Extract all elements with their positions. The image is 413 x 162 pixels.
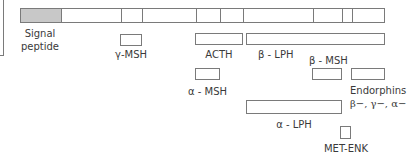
segment-divider — [243, 9, 244, 22]
acth-box — [195, 33, 243, 45]
acth-label: ACTH — [195, 49, 243, 60]
signal-peptide-segment — [21, 9, 61, 22]
endorphins-box — [351, 68, 385, 80]
beta-lph-label: β - LPH — [258, 49, 293, 60]
met-enk-box — [340, 126, 351, 139]
alpha-msh-box — [195, 68, 220, 80]
met-enk-label: MET-ENK — [316, 143, 376, 154]
segment-divider — [121, 9, 122, 22]
alpha-lph-label: α - LPH — [246, 119, 342, 130]
alpha-lph-box — [246, 100, 342, 114]
signal-label-line2: peptide — [15, 41, 65, 52]
endorphins-types-label: β−, γ−, α− — [350, 98, 406, 109]
segment-divider — [313, 9, 314, 22]
gamma-msh-box — [120, 34, 142, 46]
segment-divider — [142, 9, 143, 22]
signal-peptide-label: Signal peptide — [15, 28, 65, 52]
signal-label-line1: Signal — [15, 28, 65, 39]
pomc-precursor-bar — [20, 8, 385, 23]
beta-msh-label: β - MSH — [309, 55, 348, 66]
beta-msh-box — [312, 68, 342, 80]
partial-left-box — [0, 0, 4, 56]
segment-divider — [220, 9, 221, 22]
segment-divider — [196, 9, 197, 22]
segment-divider — [342, 9, 343, 22]
endorphins-label: Endorphins — [350, 85, 406, 96]
alpha-msh-label: α - MSH — [188, 86, 227, 97]
beta-lph-box — [246, 33, 385, 45]
segment-divider — [61, 9, 62, 22]
gamma-msh-label: γ-MSH — [106, 49, 156, 60]
segment-divider — [352, 9, 353, 22]
